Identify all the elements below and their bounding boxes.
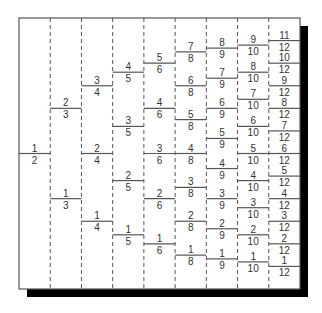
denominator: 9 <box>219 260 225 271</box>
numerator: 4 <box>157 97 163 108</box>
denominator: 8 <box>188 155 194 166</box>
numerator: 4 <box>282 188 288 199</box>
numerator: 7 <box>282 120 288 131</box>
denominator: 6 <box>157 109 163 120</box>
numerator: 6 <box>219 97 225 108</box>
denominator: 10 <box>248 236 260 247</box>
denominator: 9 <box>219 109 225 120</box>
denominator: 12 <box>279 132 291 143</box>
denominator: 12 <box>279 155 291 166</box>
denominator: 5 <box>125 73 131 84</box>
denominator: 10 <box>248 182 260 193</box>
denominator: 4 <box>94 155 100 166</box>
denominator: 6 <box>157 155 163 166</box>
denominator: 5 <box>125 182 131 193</box>
denominator: 9 <box>219 79 225 90</box>
numerator: 7 <box>219 67 225 78</box>
denominator: 6 <box>157 64 163 75</box>
numerator: 4 <box>250 170 256 181</box>
denominator: 8 <box>188 121 194 132</box>
denominator: 10 <box>248 46 260 57</box>
denominator: 8 <box>188 188 194 199</box>
numerator: 3 <box>250 197 256 208</box>
numerator: 1 <box>94 210 100 221</box>
denominator: 8 <box>188 256 194 267</box>
numerator: 6 <box>282 143 288 154</box>
denominator: 12 <box>279 267 291 278</box>
denominator: 9 <box>219 200 225 211</box>
numerator: 1 <box>157 233 163 244</box>
denominator: 6 <box>157 245 163 256</box>
numerator: 5 <box>157 52 163 63</box>
denominator: 10 <box>248 127 260 138</box>
numerator: 9 <box>282 75 288 86</box>
numerator: 1 <box>250 251 256 262</box>
numerator: 4 <box>125 61 131 72</box>
denominator: 12 <box>279 245 291 256</box>
numerator: 5 <box>250 143 256 154</box>
numerator: 2 <box>250 224 256 235</box>
denominator: 12 <box>279 222 291 233</box>
numerator: 9 <box>250 34 256 45</box>
denominator: 9 <box>219 170 225 181</box>
numerator: 3 <box>125 115 131 126</box>
numerator: 3 <box>188 176 194 187</box>
denominator: 10 <box>248 155 260 166</box>
denominator: 6 <box>157 200 163 211</box>
denominator: 12 <box>279 109 291 120</box>
numerator: 1 <box>219 248 225 259</box>
denominator: 10 <box>248 73 260 84</box>
denominator: 9 <box>219 139 225 150</box>
numerator: 5 <box>282 165 288 176</box>
denominator: 2 <box>32 155 38 166</box>
denominator: 10 <box>248 263 260 274</box>
denominator: 4 <box>94 222 100 233</box>
numerator: 2 <box>282 233 288 244</box>
numerator: 8 <box>282 97 288 108</box>
denominator: 12 <box>279 177 291 188</box>
numerator: 7 <box>188 41 194 52</box>
numerator: 4 <box>219 158 225 169</box>
denominator: 4 <box>94 87 100 98</box>
numerator: 2 <box>94 143 100 154</box>
numerator: 11 <box>279 30 290 41</box>
denominator: 10 <box>248 209 260 220</box>
denominator: 10 <box>248 100 260 111</box>
denominator: 9 <box>219 230 225 241</box>
numerator: 6 <box>188 75 194 86</box>
denominator: 8 <box>188 87 194 98</box>
denominator: 12 <box>279 200 291 211</box>
numerator: 2 <box>63 97 69 108</box>
denominator: 8 <box>188 222 194 233</box>
numerator: 3 <box>219 188 225 199</box>
denominator: 12 <box>279 87 291 98</box>
numerator: 3 <box>94 75 100 86</box>
numerator: 4 <box>188 143 194 154</box>
numerator: 10 <box>279 52 291 63</box>
numerator: 1 <box>125 224 131 235</box>
denominator: 8 <box>188 53 194 64</box>
denominator: 12 <box>279 42 291 53</box>
numerator: 5 <box>188 109 194 120</box>
numerator: 2 <box>157 188 163 199</box>
numerator: 1 <box>188 244 194 255</box>
numerator: 8 <box>219 37 225 48</box>
numerator: 2 <box>125 170 131 181</box>
numerator: 7 <box>250 88 256 99</box>
numerator: 1 <box>282 255 288 266</box>
numerator: 6 <box>250 115 256 126</box>
numerator: 3 <box>282 210 288 221</box>
numerator: 5 <box>219 127 225 138</box>
numerator: 3 <box>157 143 163 154</box>
denominator: 3 <box>63 200 69 211</box>
numerator: 1 <box>32 143 38 154</box>
denominator: 5 <box>125 127 131 138</box>
numerator: 2 <box>219 218 225 229</box>
denominator: 12 <box>279 64 291 75</box>
numerator: 8 <box>250 61 256 72</box>
denominator: 5 <box>125 236 131 247</box>
numerator: 2 <box>188 210 194 221</box>
denominator: 3 <box>63 109 69 120</box>
numerator: 1 <box>63 188 69 199</box>
denominator: 9 <box>219 49 225 60</box>
